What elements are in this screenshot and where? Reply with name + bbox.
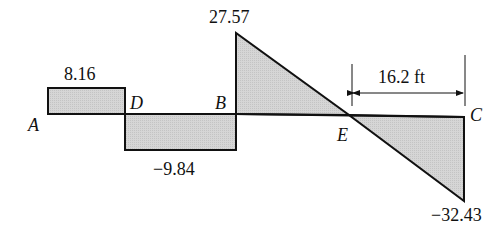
value-ad: 8.16 <box>64 65 96 83</box>
segment-ec <box>349 115 464 201</box>
point-d: D <box>130 94 143 112</box>
point-a: A <box>28 116 39 134</box>
point-e: E <box>337 126 348 144</box>
value-c-end: −32.43 <box>431 206 482 224</box>
segment-ad <box>48 88 125 114</box>
point-c: C <box>470 106 482 124</box>
shear-diagram <box>0 0 504 246</box>
value-b-peak: 27.57 <box>209 8 250 26</box>
dimension-ec: 16.2 ft <box>378 68 425 86</box>
point-b: B <box>215 94 226 112</box>
segment-be <box>236 33 349 115</box>
segment-db <box>125 114 236 150</box>
value-db: −9.84 <box>153 160 195 178</box>
